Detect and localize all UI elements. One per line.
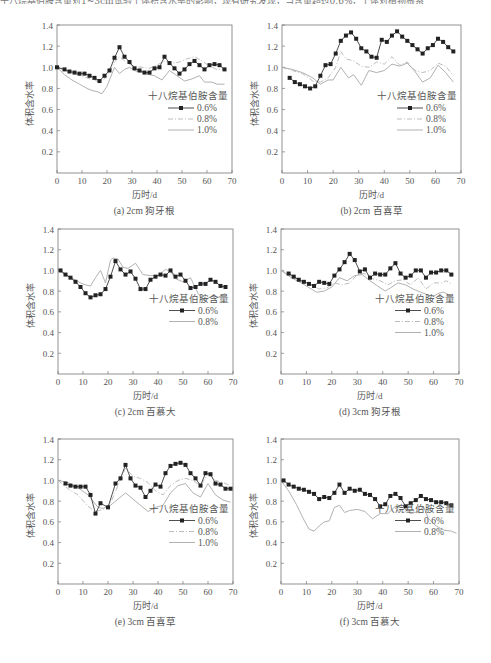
data-point-marker (337, 483, 341, 487)
chart-d: 0.20.40.60.81.01.21.4010203040506070历时/d… (248, 225, 464, 419)
data-point-marker (364, 49, 368, 53)
panel-caption: (f) 3cm 百慕大 (340, 616, 401, 628)
y-tick-label: 0.6 (266, 307, 278, 317)
data-point-marker (193, 59, 197, 63)
x-tick-label: 10 (303, 176, 313, 186)
y-tick-label: 0.4 (43, 538, 55, 548)
data-point-marker (312, 492, 316, 496)
data-point-marker (363, 267, 367, 271)
y-axis-label: 体积含水率 (25, 493, 36, 538)
legend-label: 0.8% (424, 527, 444, 537)
data-point-marker (179, 461, 183, 465)
data-point-marker (405, 39, 409, 43)
data-point-marker (113, 56, 117, 60)
data-point-marker (184, 463, 188, 467)
data-point-marker (229, 487, 233, 491)
x-tick-label: 50 (404, 587, 414, 597)
data-point-marker (198, 63, 202, 67)
x-tick-label: 10 (302, 587, 312, 597)
data-point-marker (173, 66, 177, 70)
legend-title: 十八烷基伯胺含量 (375, 293, 455, 304)
data-point-marker (359, 46, 363, 50)
x-tick-label: 20 (103, 176, 113, 186)
x-tick-label: 50 (179, 587, 189, 597)
legend-label: 0.8% (424, 317, 444, 327)
data-point-marker (119, 267, 123, 271)
x-tick-label: 20 (329, 176, 339, 186)
series-line-0.6% (290, 31, 454, 88)
data-point-marker (79, 485, 83, 489)
data-point-marker (383, 273, 387, 277)
x-tick-label: 10 (79, 377, 89, 387)
data-point-marker (63, 67, 67, 71)
data-point-marker (124, 273, 128, 277)
data-point-marker (318, 74, 322, 78)
y-tick-label: 0.6 (43, 307, 55, 317)
data-point-marker (174, 462, 178, 466)
data-point-marker (312, 284, 316, 288)
data-point-marker (334, 52, 338, 56)
data-point-marker (99, 292, 103, 296)
x-tick-label: 30 (354, 176, 364, 186)
data-point-marker (159, 485, 163, 489)
data-point-marker (69, 276, 73, 280)
x-tick-label: 60 (204, 377, 214, 387)
data-point-marker (99, 501, 103, 505)
x-tick-label: 50 (179, 377, 189, 387)
y-tick-label: 0.4 (267, 126, 279, 136)
data-point-marker (354, 37, 358, 41)
data-point-marker (223, 67, 227, 71)
data-point-marker (439, 268, 443, 272)
data-point-marker (208, 63, 212, 67)
data-point-marker (74, 280, 78, 284)
x-tick-label: 70 (229, 587, 239, 597)
data-point-marker (84, 485, 88, 489)
x-axis-label: 历时/d (357, 390, 383, 401)
data-point-marker (188, 62, 192, 66)
x-tick-label: 0 (279, 587, 284, 597)
y-tick-label: 1.2 (43, 455, 54, 465)
data-point-marker (400, 35, 404, 39)
y-tick-label: 1.2 (43, 245, 54, 255)
data-point-marker (103, 74, 107, 78)
data-point-marker (297, 487, 301, 491)
data-point-marker (317, 497, 321, 501)
data-point-marker (119, 476, 123, 480)
data-point-marker (393, 261, 397, 265)
y-axis-label: 体积含水率 (248, 283, 259, 328)
y-tick-label: 0.8 (267, 84, 279, 94)
x-tick-label: 10 (78, 176, 88, 186)
data-point-marker (370, 55, 374, 59)
data-point-marker (451, 49, 455, 53)
y-tick-label: 0.6 (267, 105, 279, 115)
data-point-marker (134, 484, 138, 488)
data-point-marker (79, 285, 83, 289)
data-point-marker (214, 280, 218, 284)
data-point-marker (154, 275, 158, 279)
data-point-marker (444, 268, 448, 272)
y-tick-label: 1.0 (266, 476, 278, 486)
data-point-marker (323, 63, 327, 67)
x-tick-label: 70 (457, 176, 467, 186)
x-axis-label: 历时/d (133, 390, 159, 401)
y-tick-label: 0.2 (266, 349, 277, 359)
series-line-1.0% (281, 270, 451, 296)
legend-label: 0.6% (198, 306, 218, 316)
legend-label: 0.6% (424, 516, 444, 526)
x-tick-label: 30 (129, 587, 139, 597)
y-tick-label: 1.0 (266, 266, 278, 276)
data-point-marker (149, 278, 153, 282)
data-point-marker (178, 72, 182, 76)
data-point-marker (287, 483, 291, 487)
data-point-marker (64, 482, 68, 486)
panel-caption: (a) 2cm 狗牙根 (114, 205, 176, 217)
data-point-marker (292, 485, 296, 489)
y-tick-label: 0.8 (43, 287, 55, 297)
data-point-marker (64, 273, 68, 277)
chart-c: 0.20.40.60.81.01.21.4010203040506070历时/d… (25, 225, 238, 419)
data-point-marker (98, 79, 102, 83)
x-tick-label: 30 (129, 377, 139, 387)
data-point-marker (114, 482, 118, 486)
data-point-marker (203, 67, 207, 71)
data-point-marker (218, 63, 222, 67)
